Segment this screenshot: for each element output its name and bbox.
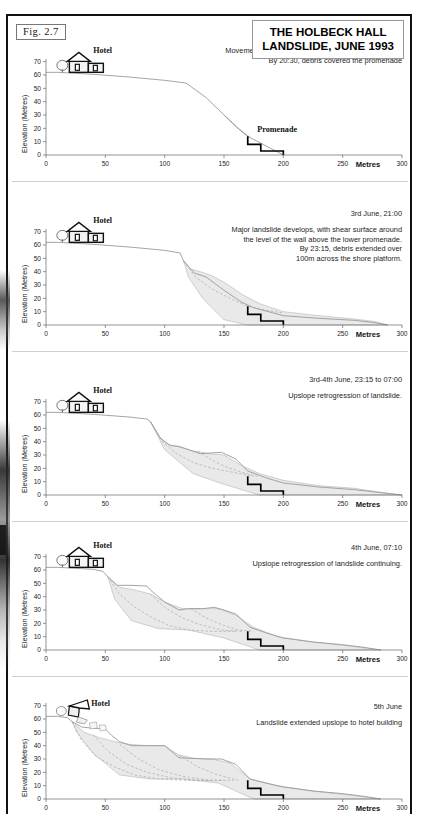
hotel-rubble (99, 725, 106, 731)
panel-divider (12, 351, 408, 352)
y-tick-label: 10 (34, 478, 42, 485)
hotel-building: Hotel (57, 46, 113, 72)
stage-annotation: 5th JuneLandslide extended upslope to ho… (152, 702, 402, 728)
y-tick-label: 40 (34, 438, 42, 445)
x-tick-label: 50 (102, 804, 110, 811)
y-tick-label: 0 (37, 491, 41, 498)
stage-date: 3rd June, 21:00 (152, 209, 402, 218)
x-tick-label: 150 (218, 160, 229, 167)
x-tick-label: 100 (159, 655, 170, 662)
x-tick-label: 300 (396, 500, 407, 507)
scan-shadow-artifact-secondary (0, 525, 6, 555)
hotel-building: Hotel (57, 216, 113, 242)
y-tick-label: 20 (34, 620, 42, 627)
panel-divider (12, 676, 408, 677)
hotel-building: Hotel (57, 541, 113, 567)
x-tick-label: 100 (159, 330, 170, 337)
y-tick-label: 50 (34, 580, 42, 587)
y-tick-label: 10 (34, 308, 42, 315)
y-tick-label: 60 (34, 411, 42, 418)
x-tick-label: 200 (278, 160, 289, 167)
x-tick-label: 150 (218, 655, 229, 662)
y-tick-label: 20 (34, 125, 42, 132)
y-tick-label: 20 (34, 295, 42, 302)
y-tick-label: 10 (34, 633, 42, 640)
x-tick-label: 300 (396, 160, 407, 167)
x-tick-label: 50 (102, 160, 110, 167)
x-tick-label: 100 (159, 160, 170, 167)
y-tick-label: 60 (34, 715, 42, 722)
x-tick-label: 200 (278, 804, 289, 811)
y-axis-title: Elevation (Metres) (20, 435, 29, 493)
stage-caption: Major landslide develops, with shear sur… (152, 225, 402, 263)
y-tick-label: 0 (37, 795, 41, 802)
hotel-label: Hotel (93, 386, 112, 395)
y-tick-label: 30 (34, 281, 42, 288)
x-tick-label: 50 (102, 330, 110, 337)
x-tick-label: 0 (44, 330, 48, 337)
y-tick-label: 50 (34, 85, 42, 92)
hotel-window (93, 560, 97, 566)
ground-profile-line (46, 716, 381, 799)
x-tick-label: 0 (44, 500, 48, 507)
y-tick-label: 10 (34, 782, 42, 789)
landslide-stage-panel: 050100150200250300010203040506070MetresH… (8, 351, 412, 521)
landslide-stage-panel: 050100150200250300010203040506070MetresH… (8, 521, 412, 676)
y-axis-title: Elevation (Metres) (20, 265, 29, 323)
x-tick-label: 200 (278, 330, 289, 337)
hotel-building: Hotel (57, 386, 113, 412)
stage-annotation: 3rd June, 21:00Major landslide develops,… (152, 209, 402, 263)
hotel-window (75, 404, 79, 410)
y-tick-label: 0 (37, 321, 41, 328)
x-axis-unit-label: Metres (356, 804, 380, 813)
stage-date: 5th June (152, 702, 402, 711)
y-axis-title: Elevation (Metres) (20, 739, 29, 797)
y-tick-label: 0 (37, 646, 41, 653)
figure-number-label: Fig. 2.7 (16, 24, 66, 40)
x-axis-unit-label: Metres (356, 330, 380, 339)
y-tick-label: 40 (34, 268, 42, 275)
stage-caption-line: 100m across the shore platform. (152, 254, 402, 263)
y-tick-label: 50 (34, 729, 42, 736)
stage-caption-line: the level of the wall above the lower pr… (152, 235, 402, 244)
y-tick-label: 60 (34, 71, 42, 78)
hotel-window (93, 405, 97, 411)
stage-caption: Upslope retrogression of landslide. (152, 391, 402, 400)
x-tick-label: 0 (44, 160, 48, 167)
x-tick-label: 100 (159, 500, 170, 507)
x-axis-unit-label: Metres (356, 500, 380, 509)
x-tick-label: 300 (396, 655, 407, 662)
hotel-label: Hotel (93, 541, 112, 550)
y-tick-label: 30 (34, 451, 42, 458)
stage-annotation: 4th June, 07:10Upslope retrogression of … (152, 543, 402, 569)
y-tick-label: 20 (34, 769, 42, 776)
x-axis-unit-label: Metres (356, 160, 380, 169)
hotel-window (93, 235, 97, 241)
hotel-building: Hotel (56, 699, 110, 731)
y-tick-label: 10 (34, 138, 42, 145)
y-tick-label: 40 (34, 98, 42, 105)
landslide-stage-panel: 050100150200250300010203040506070MetresH… (8, 676, 412, 825)
x-tick-label: 300 (396, 804, 407, 811)
x-tick-label: 200 (278, 500, 289, 507)
y-tick-label: 0 (37, 151, 41, 158)
tree-icon (56, 707, 66, 716)
y-tick-label: 70 (34, 398, 42, 405)
hotel-window (75, 234, 79, 240)
cross-section-plot: 050100150200250300010203040506070MetresH… (8, 676, 412, 825)
promenade-label: Promenade (257, 125, 297, 134)
y-tick-label: 40 (34, 593, 42, 600)
panel-divider (12, 181, 408, 182)
panel-divider (12, 521, 408, 522)
x-tick-label: 150 (218, 330, 229, 337)
x-tick-label: 250 (337, 655, 348, 662)
x-tick-label: 250 (337, 330, 348, 337)
stage-annotation: 3rd-4th June, 23:15 to 07:00Upslope retr… (152, 375, 402, 401)
y-tick-label: 70 (34, 702, 42, 709)
x-tick-label: 50 (102, 655, 110, 662)
hotel-label: Hotel (91, 699, 110, 708)
x-tick-label: 50 (102, 500, 110, 507)
x-tick-label: 250 (337, 500, 348, 507)
y-axis-title: Elevation (Metres) (20, 590, 29, 648)
stage-caption-line: Major landslide develops, with shear sur… (152, 225, 402, 234)
